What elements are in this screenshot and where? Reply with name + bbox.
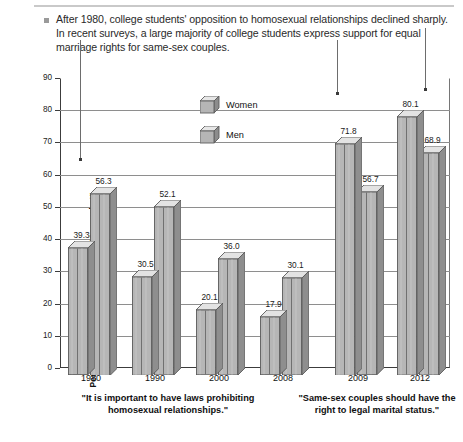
bar-value-label: 52.1: [148, 189, 187, 199]
bar-women-2008: [260, 310, 287, 375]
bar-value-label: 68.9: [413, 135, 452, 145]
pointer-1980: [80, 40, 81, 158]
group-caption-right: "Same-sex couples should have the right …: [297, 392, 457, 416]
gridline: [60, 271, 450, 272]
y-tick-mark: [55, 304, 60, 305]
bar-value-label: 56.3: [84, 176, 123, 186]
bar-value-label: 80.1: [391, 99, 430, 109]
group-caption-left: "It is important to have laws prohibitin…: [73, 392, 263, 416]
bar-value-label: 56.7: [351, 174, 390, 184]
legend-item-women: Women: [200, 96, 258, 114]
legend-label-women: Women: [226, 100, 258, 110]
y-tick-label: 70: [26, 137, 52, 146]
bar-value-label: 17.9: [254, 299, 293, 309]
bar-value-label: 36.0: [212, 241, 251, 251]
y-tick-label: 0: [26, 363, 52, 372]
bar-chart: Percentage Agreeing "Strongly" or "Somew…: [0, 0, 463, 442]
y-tick-mark: [55, 239, 60, 240]
y-tick-label: 60: [26, 170, 52, 179]
y-tick-mark: [55, 110, 60, 111]
bar-women-2009: [335, 137, 362, 375]
bar-value-label: 39.3: [62, 230, 101, 240]
pointer-2012: [425, 28, 426, 88]
y-tick-label: 50: [26, 202, 52, 211]
y-tick-label: 10: [26, 331, 52, 340]
bar-value-label: 30.5: [126, 259, 165, 269]
pointer-2009: [337, 40, 338, 92]
y-tick-mark: [55, 78, 60, 79]
legend-item-men: Men: [200, 126, 244, 144]
gridline: [60, 336, 450, 337]
bar-value-label: 20.1: [190, 292, 229, 302]
y-tick-mark: [55, 368, 60, 369]
bar-women-2000: [196, 303, 223, 375]
y-tick-label: 30: [26, 266, 52, 275]
plot-area: Percentage Agreeing "Strongly" or "Somew…: [60, 78, 450, 368]
bar-value-label: 71.8: [329, 126, 368, 136]
gridline: [60, 239, 450, 240]
y-tick-mark: [55, 336, 60, 337]
y-tick-mark: [55, 175, 60, 176]
gridline: [60, 207, 450, 208]
pointer-arrowhead-icon: [79, 158, 82, 161]
pointer-arrowhead-icon: [336, 92, 339, 95]
y-tick-label: 40: [26, 234, 52, 243]
pointer-arrowhead-icon: [424, 88, 427, 91]
bar-women-1990: [132, 270, 159, 375]
y-tick-mark: [55, 271, 60, 272]
legend-cube-women-icon: [200, 96, 220, 114]
y-tick-label: 80: [26, 105, 52, 114]
y-tick-label: 90: [26, 73, 52, 82]
gridline: [60, 142, 450, 143]
legend-label-men: Men: [226, 130, 244, 140]
bar-women-2012: [397, 110, 424, 375]
y-tick-mark: [55, 142, 60, 143]
bar-women-1980: [68, 241, 95, 375]
legend-cube-men-icon: [200, 126, 220, 144]
y-tick-label: 20: [26, 299, 52, 308]
y-tick-mark: [55, 207, 60, 208]
bar-value-label: 30.1: [276, 260, 315, 270]
